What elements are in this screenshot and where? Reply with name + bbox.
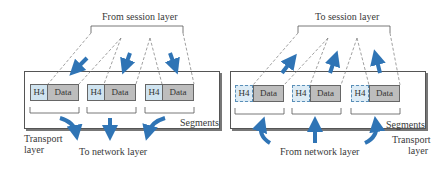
left-top-bracket xyxy=(91,26,183,33)
left-arrows-down-from-session xyxy=(75,53,175,70)
right-arrows-up-to-session xyxy=(282,57,380,73)
left-arrows-to-network xyxy=(60,118,165,133)
left-segment-brackets xyxy=(30,107,194,113)
diagram-lines-and-arrows xyxy=(0,0,448,169)
right-top-bracket xyxy=(298,26,390,33)
right-arrows-from-network xyxy=(261,124,376,143)
right-segment-brackets xyxy=(235,108,400,114)
